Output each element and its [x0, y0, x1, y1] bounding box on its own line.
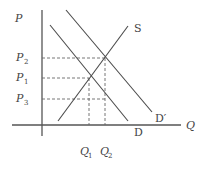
svg-text:1: 1: [88, 152, 92, 160]
svg-text:2: 2: [24, 58, 28, 66]
svg-text:P: P: [15, 71, 24, 84]
quantity-label-q2: Q 2: [100, 145, 112, 160]
supply-curve-s: [58, 26, 128, 121]
x-axis-label: Q: [186, 119, 195, 132]
y-axis-label: P: [14, 12, 23, 25]
svg-text:3: 3: [24, 99, 28, 107]
demand-prime-curve-label: D′: [155, 112, 167, 125]
svg-text:P: P: [15, 51, 24, 64]
demand-curve-d: [50, 25, 128, 121]
price-label-p2: P 2: [15, 51, 28, 66]
demand-curve-label: D: [134, 126, 143, 139]
supply-demand-diagram: P Q S D D′ P 2 P 1 P 3 Q 1 Q 2: [0, 0, 203, 180]
svg-text:2: 2: [108, 152, 112, 160]
svg-text:P: P: [15, 92, 24, 105]
price-label-p1: P 1: [15, 71, 28, 86]
quantity-label-q1: Q 1: [80, 145, 92, 160]
svg-text:1: 1: [24, 78, 28, 86]
supply-curve-label: S: [134, 22, 142, 35]
price-label-p3: P 3: [15, 92, 28, 107]
